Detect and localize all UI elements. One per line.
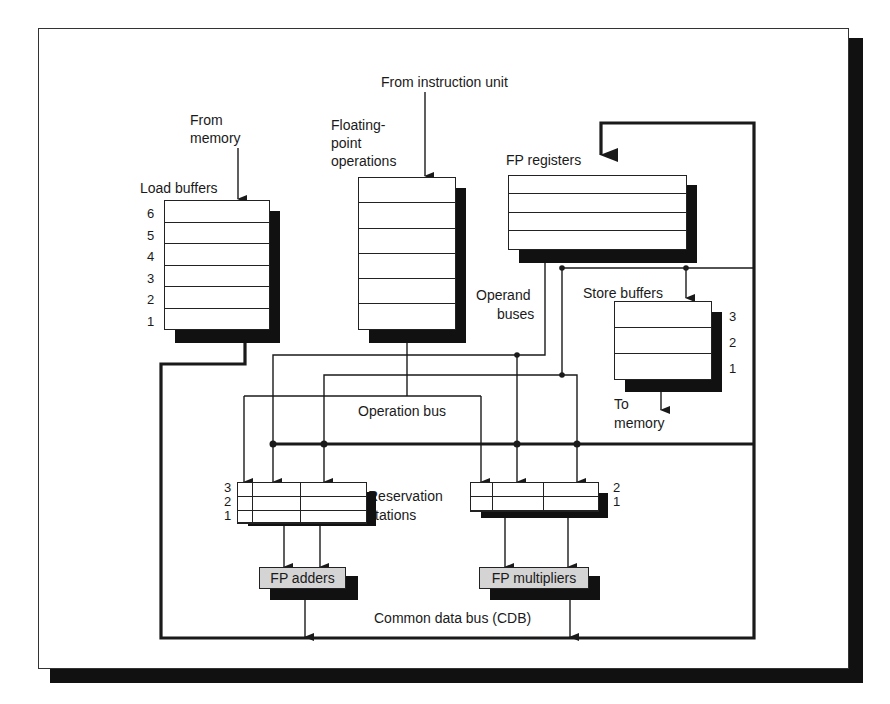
fp-register-row <box>509 176 686 194</box>
multiplier-reservation-stations <box>470 482 599 512</box>
load-buffer-num: 1 <box>147 314 154 329</box>
fp-op-slot <box>359 304 455 329</box>
load-buffer-num: 6 <box>147 206 154 221</box>
cdb-label: Common data bus (CDB) <box>374 610 531 626</box>
fp-register-row <box>509 231 686 249</box>
bus-wires <box>0 0 890 704</box>
load-buffer-num: 4 <box>147 249 154 264</box>
store-buffer-1 <box>615 354 711 380</box>
rs-operand-field <box>543 483 544 511</box>
store-buffers <box>614 301 712 380</box>
multiplier-rs-num: 2 <box>613 481 620 494</box>
fp-op-slot <box>359 178 455 203</box>
fp-adders-unit: FP adders <box>259 567 346 589</box>
load-buffer-5 <box>165 223 269 245</box>
load-buffer-6 <box>165 201 269 223</box>
adder-rs-3 <box>238 483 366 497</box>
fp-op-slot <box>359 203 455 228</box>
adder-rs-2 <box>238 497 366 511</box>
to-memory-label-1: To <box>614 396 629 412</box>
multiplier-rs-2 <box>471 483 598 497</box>
operation-bus-label: Operation bus <box>358 403 446 419</box>
load-buffer-4 <box>165 244 269 266</box>
fp-multipliers-unit: FP multipliers <box>479 567 589 589</box>
fp-registers-label: FP registers <box>506 152 581 168</box>
store-buffers-label: Store buffers <box>583 285 663 301</box>
adder-rs-1 <box>238 511 366 523</box>
fp-register-row <box>509 213 686 231</box>
fp-operations-label-2: point <box>331 135 361 151</box>
fp-op-slot <box>359 254 455 279</box>
adder-rs-num: 2 <box>224 495 231 508</box>
multiplier-rs-num: 1 <box>613 495 620 508</box>
operand-buses-label-2: buses <box>497 306 534 322</box>
load-buffer-2 <box>165 287 269 309</box>
fp-operation-queue <box>358 177 456 330</box>
load-buffer-3 <box>165 266 269 288</box>
adder-reservation-stations <box>237 482 367 524</box>
load-buffer-num: 2 <box>147 292 154 307</box>
store-buffer-num: 2 <box>729 335 736 350</box>
from-instruction-unit-label: From instruction unit <box>381 74 508 90</box>
load-buffer-num: 5 <box>147 228 154 243</box>
store-buffer-num: 1 <box>729 361 736 376</box>
load-buffers <box>164 200 270 330</box>
load-buffers-label: Load buffers <box>140 180 218 196</box>
operand-buses-label-1: Operand <box>476 287 530 303</box>
fp-registers <box>508 175 687 250</box>
to-memory-label-2: memory <box>614 415 665 431</box>
store-buffer-num: 3 <box>729 309 736 324</box>
fp-operations-label-3: operations <box>331 153 396 169</box>
adder-rs-num: 1 <box>224 509 231 522</box>
rs-operand-field <box>300 483 301 523</box>
multiplier-rs-1 <box>471 497 598 511</box>
from-memory-label-2: memory <box>190 130 241 146</box>
fp-op-slot <box>359 279 455 304</box>
load-buffer-1 <box>165 309 269 331</box>
fp-operations-label-1: Floating- <box>331 117 385 133</box>
from-memory-label-1: From <box>190 112 223 128</box>
adder-rs-num: 3 <box>224 481 231 494</box>
fp-register-row <box>509 194 686 212</box>
reservation-stations-label-1: Reservation <box>368 488 443 504</box>
store-buffer-2 <box>615 328 711 354</box>
rs-op-field <box>252 483 253 523</box>
fp-op-slot <box>359 229 455 254</box>
rs-op-field <box>492 483 493 511</box>
store-buffer-3 <box>615 302 711 328</box>
load-buffer-num: 3 <box>147 271 154 286</box>
